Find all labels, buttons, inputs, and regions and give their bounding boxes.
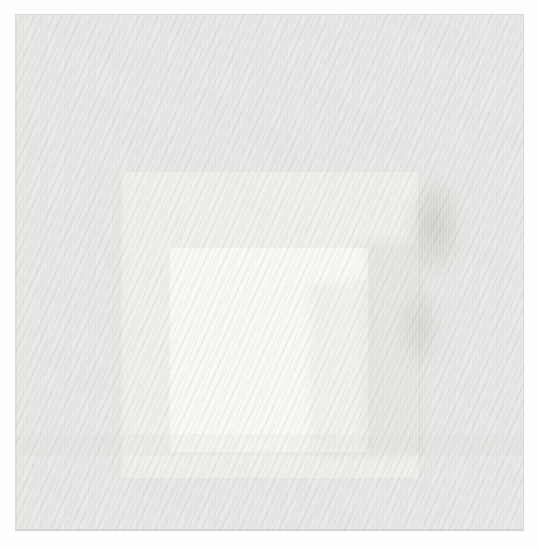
scan-page-background [0, 0, 538, 548]
painting-canvas [15, 14, 524, 531]
inner-square [170, 248, 368, 452]
